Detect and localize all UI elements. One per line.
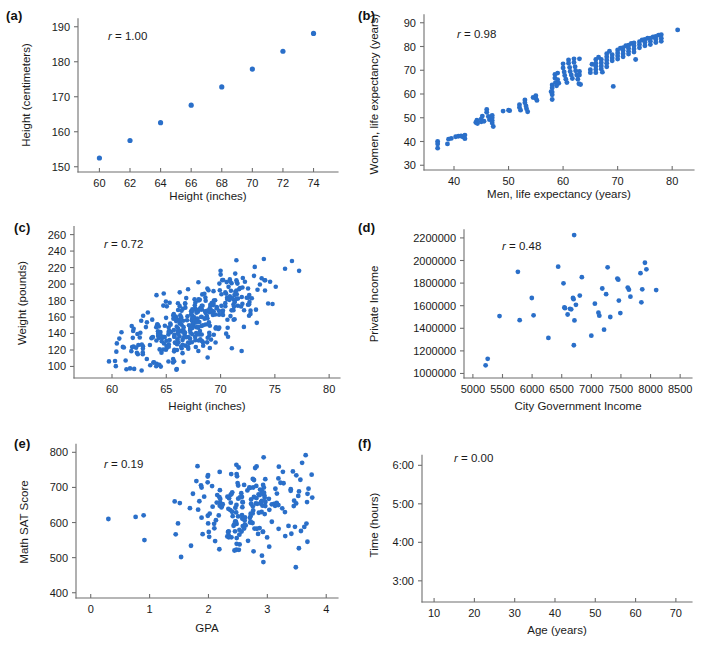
- data-point: [300, 460, 305, 465]
- x-tick-label: 1: [147, 603, 153, 615]
- data-point: [229, 308, 234, 313]
- data-point: [570, 76, 575, 81]
- x-tick-label: 4: [323, 603, 329, 615]
- data-point: [212, 526, 217, 531]
- data-point: [225, 494, 230, 499]
- data-point: [303, 453, 308, 458]
- data-point: [261, 483, 266, 488]
- data-point: [199, 515, 204, 520]
- y-tick-label: 220: [48, 262, 66, 274]
- x-axis-label: Height (inches): [168, 400, 246, 412]
- data-point: [195, 464, 200, 469]
- data-point: [180, 351, 185, 356]
- data-point: [263, 288, 268, 293]
- data-point: [550, 92, 555, 97]
- data-point: [309, 472, 314, 477]
- x-tick-label: 80: [323, 383, 335, 395]
- data-point: [194, 479, 199, 484]
- data-point: [260, 503, 265, 508]
- x-tick-label: 50: [589, 607, 601, 619]
- data-point: [240, 500, 245, 505]
- data-point: [207, 511, 212, 516]
- data-point: [234, 296, 239, 301]
- data-point: [288, 488, 293, 493]
- data-point: [230, 514, 235, 519]
- data-point: [239, 349, 244, 354]
- data-point: [141, 513, 146, 518]
- data-point: [97, 155, 102, 160]
- data-point: [480, 114, 485, 119]
- data-point: [261, 560, 266, 565]
- data-point: [293, 565, 298, 570]
- data-point: [275, 502, 280, 507]
- data-point: [255, 321, 260, 326]
- data-point: [210, 504, 215, 509]
- data-point: [644, 267, 649, 272]
- data-point: [569, 307, 574, 312]
- data-point: [207, 534, 212, 539]
- y-tick-label: 800: [50, 446, 68, 458]
- data-point: [234, 536, 239, 541]
- data-point: [484, 110, 489, 115]
- y-tick-label: 30: [404, 159, 416, 171]
- data-point: [230, 490, 235, 495]
- data-point: [306, 486, 311, 491]
- data-point: [181, 360, 186, 365]
- data-point: [234, 258, 239, 263]
- x-tick-label: 0: [88, 603, 94, 615]
- x-tick-label: 62: [124, 177, 136, 189]
- data-point: [217, 547, 222, 552]
- data-point: [242, 518, 247, 523]
- data-point: [233, 529, 238, 534]
- data-point: [130, 336, 135, 341]
- data-point: [574, 302, 579, 307]
- data-point: [186, 340, 191, 345]
- data-point: [158, 120, 163, 125]
- data-point: [632, 50, 637, 55]
- x-tick-label: 64: [154, 177, 166, 189]
- data-point: [642, 43, 647, 48]
- scatter-plot-c: 1001201401601802002202402606065707580Hei…: [0, 212, 352, 424]
- data-point: [565, 312, 570, 317]
- y-tick-label: 1200000: [413, 345, 456, 357]
- data-point: [140, 342, 145, 347]
- data-point: [566, 61, 571, 66]
- data-point: [226, 533, 231, 538]
- data-point: [203, 309, 208, 314]
- data-point: [266, 496, 271, 501]
- data-point: [593, 70, 598, 75]
- y-axis-label: Private Income: [368, 266, 380, 343]
- data-point: [166, 344, 171, 349]
- data-point: [180, 306, 185, 311]
- data-point: [144, 325, 149, 330]
- data-point: [180, 342, 185, 347]
- data-point: [571, 343, 576, 348]
- data-point: [190, 321, 195, 326]
- data-point: [207, 330, 212, 335]
- data-point: [205, 480, 210, 485]
- data-point: [267, 544, 272, 549]
- y-tick-label: 5:00: [393, 498, 414, 510]
- data-point: [578, 82, 583, 87]
- data-point: [123, 358, 128, 363]
- data-point: [637, 45, 642, 50]
- data-point: [262, 257, 267, 262]
- data-point: [189, 103, 194, 108]
- data-point: [194, 345, 199, 350]
- data-point: [604, 64, 609, 69]
- data-point: [196, 297, 201, 302]
- data-point: [256, 532, 261, 537]
- data-point: [199, 332, 204, 337]
- y-tick-label: 50: [404, 112, 416, 124]
- data-point: [184, 296, 189, 301]
- data-point: [597, 313, 602, 318]
- data-point: [555, 71, 560, 76]
- data-point: [114, 349, 119, 354]
- data-point: [219, 304, 224, 309]
- data-point: [298, 477, 303, 482]
- x-tick-label: 8000: [638, 383, 662, 395]
- data-point: [269, 502, 274, 507]
- data-point: [639, 300, 644, 305]
- data-point: [205, 316, 210, 321]
- y-tick-label: 500: [50, 552, 68, 564]
